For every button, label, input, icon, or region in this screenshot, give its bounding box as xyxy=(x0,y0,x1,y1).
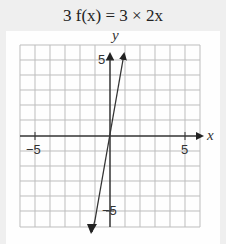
y-axis-label: y xyxy=(110,27,119,43)
x-tick-label-5: 5 xyxy=(181,142,188,157)
x-tick-label-neg5: −5 xyxy=(26,142,41,157)
coordinate-plane: y x 5 −5 −5 5 xyxy=(0,0,226,244)
arrow-down-icon xyxy=(87,224,97,234)
y-tick-label-5: 5 xyxy=(98,52,105,67)
y-tick-label-neg5: −5 xyxy=(102,203,117,218)
x-axis-label: x xyxy=(206,127,214,143)
